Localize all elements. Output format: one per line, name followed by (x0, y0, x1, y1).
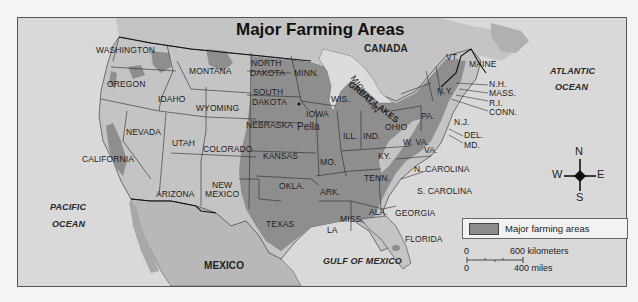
label-texas: TEXAS (266, 220, 294, 229)
label-north-carolina: N. CAROLINA (414, 165, 469, 174)
label-montana: MONTANA (189, 67, 232, 76)
label-mexico: MEXICO (204, 261, 244, 271)
label-utah: UTAH (172, 139, 195, 148)
scale-mi-zero: 0 (464, 263, 469, 273)
pella-dot (298, 103, 301, 106)
label-maine: MAINE (469, 60, 496, 69)
compass-n: N (575, 145, 583, 157)
scale-km-label: 600 kilometers (510, 246, 569, 256)
label-new-mexico-2: MEXICO (205, 190, 239, 199)
label-massachusetts: MASS. (489, 89, 516, 98)
scale-km-zero: 0 (464, 246, 469, 256)
label-pella: Pella (297, 122, 320, 132)
label-oklahoma: OKLA. (279, 182, 305, 191)
legend-swatch-farming (469, 223, 499, 235)
label-florida: FLORIDA (405, 235, 443, 244)
label-mississippi: MISS (340, 215, 361, 224)
label-georgia: GEORGIA (395, 209, 435, 218)
label-alabama: ALA. (369, 208, 388, 217)
label-delaware: DEL. (464, 131, 483, 140)
label-washington: WASHINGTON (96, 46, 155, 55)
label-west-virginia: W. VA. (403, 138, 429, 147)
label-wisconsin: WIS. (331, 95, 350, 104)
label-vermont: VT. (446, 53, 459, 62)
label-virginia: VA. (424, 146, 437, 155)
label-south-carolina: S. CAROLINA (417, 187, 472, 196)
label-missouri: MO. (320, 158, 336, 167)
label-indiana: IND. (363, 132, 380, 141)
scale-mi-label: 400 miles (514, 263, 553, 273)
label-california: CALIFORNIA (82, 155, 134, 164)
legend-label-farming: Major farming areas (505, 223, 589, 234)
label-south-dakota-1: SOUTH (253, 88, 283, 97)
label-oregon: OREGON (107, 80, 145, 89)
label-canada: CANADA (364, 44, 408, 54)
label-iowa: IOWA (306, 110, 329, 119)
label-idaho: IDAHO (158, 95, 185, 104)
label-pennsylvania: PA. (421, 112, 434, 121)
compass-w: W (552, 168, 562, 180)
label-louisiana: LA (327, 226, 338, 235)
label-nebraska: NEBRASKA (246, 121, 293, 130)
label-maryland: MD. (464, 141, 480, 150)
compass-e: E (597, 168, 604, 180)
label-illinois: ILL. (343, 132, 358, 141)
label-wyoming: WYOMING (196, 104, 239, 113)
label-connecticut: CONN. (489, 108, 517, 117)
legend-box: Major farming areas (462, 218, 628, 239)
label-atlantic-2: OCEAN (555, 83, 588, 92)
label-south-dakota-2: DAKOTA (252, 98, 287, 107)
label-new-jersey: N.J. (454, 118, 470, 127)
label-arizona: ARIZONA (156, 190, 194, 199)
label-atlantic-1: ATLANTIC (550, 67, 595, 76)
label-new-york: N.Y. (437, 87, 453, 96)
map-title: Major Farming Areas (236, 20, 404, 40)
label-kansas: KANSAS (263, 152, 298, 161)
label-minnesota: MINN. (294, 69, 319, 78)
label-arkansas: ARK. (320, 188, 340, 197)
label-pacific-2: OCEAN (52, 220, 85, 229)
label-pacific-1: PACIFIC (50, 203, 86, 212)
label-gulf: GULF OF MEXICO (323, 257, 402, 266)
label-north-dakota-1: NORTH (251, 59, 282, 68)
compass-s: S (576, 191, 583, 203)
label-kentucky: KY. (378, 152, 391, 161)
label-north-dakota-2: DAKOTA (250, 69, 285, 78)
label-nevada: NEVADA (126, 128, 161, 137)
label-colorado: COLORADO (203, 145, 252, 154)
label-tennessee: TENN. (364, 174, 390, 183)
label-ohio: OHIO (385, 123, 407, 132)
